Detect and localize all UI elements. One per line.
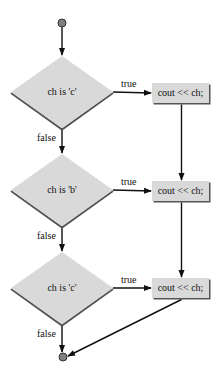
decision-3-false-label: false xyxy=(37,329,56,339)
edge-decision-2-true xyxy=(113,190,151,191)
edge-decision-1-true xyxy=(113,92,151,93)
end-node xyxy=(59,353,67,361)
decision-2-false-label: false xyxy=(37,231,56,241)
decision-1-false-label: false xyxy=(37,133,56,143)
action-3-label: cout << ch; xyxy=(158,283,204,293)
action-2-label: cout << ch; xyxy=(158,186,204,196)
decision-3-true-label: true xyxy=(121,275,137,285)
decision-3-label: ch is 'c' xyxy=(47,283,76,293)
decision-2-label: ch is 'b' xyxy=(47,185,77,195)
decision-2-true-label: true xyxy=(121,177,137,187)
decision-1-label: ch is 'c' xyxy=(47,87,76,97)
decision-1-true-label: true xyxy=(121,79,137,89)
action-1-label: cout << ch; xyxy=(158,88,204,98)
start-node xyxy=(58,19,66,27)
